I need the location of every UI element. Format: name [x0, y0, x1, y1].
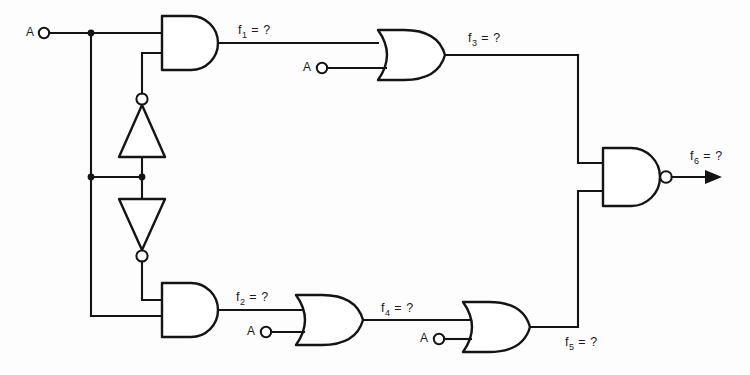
junction-dot-mid-left [88, 174, 95, 181]
junction-dot-top-bus [88, 30, 95, 37]
label-signal-f5: f5 = ? [565, 336, 598, 352]
label-signal-f4: f4 = ? [381, 302, 414, 318]
or-gate-f5[interactable] [463, 302, 578, 352]
input-terminal-a-or-f5[interactable] [434, 334, 471, 344]
label-signal-f3: f3 = ? [468, 32, 501, 48]
inverter-up[interactable] [119, 53, 165, 177]
logic-circuit-svg [0, 0, 750, 375]
label-signal-f6: f6 = ? [690, 150, 723, 166]
label-input-a-or-f5: A [420, 332, 429, 344]
input-terminal-a-or-f4[interactable] [261, 327, 304, 337]
label-signal-f2: f2 = ? [236, 291, 269, 307]
input-terminal-a-top[interactable] [39, 28, 162, 38]
label-input-a-or-f4: A [247, 325, 256, 337]
label-input-a-top: A [26, 26, 35, 38]
label-signal-f1: f1 = ? [238, 24, 271, 40]
wire-f5-to-nand [578, 191, 603, 327]
wire-left-bus [91, 33, 162, 316]
label-input-a-or-f3: A [303, 61, 312, 73]
figure-canvas: A A A A f1 = ? f2 = ? f3 = ? f4 = ? f5 =… [0, 0, 750, 375]
output-arrow-icon [705, 170, 722, 184]
wire-f3-to-nand [578, 55, 603, 163]
input-terminal-a-or-f3[interactable] [317, 63, 386, 73]
inverter-down[interactable] [119, 177, 165, 300]
and-gate-f2[interactable] [162, 283, 304, 337]
